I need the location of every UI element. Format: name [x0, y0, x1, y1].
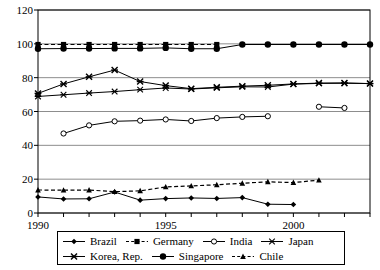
x-tick-label-2000: 2000	[282, 219, 305, 231]
legend-marker-x	[260, 236, 284, 247]
legend-symbol-marker	[71, 254, 78, 260]
data-point	[188, 86, 195, 92]
legend-row-2: Korea, Rep.SingaporeChile	[58, 249, 344, 264]
data-point	[239, 41, 245, 47]
data-point	[162, 45, 168, 51]
data-point	[86, 90, 92, 96]
data-point	[265, 201, 271, 207]
y-tick-label-20: 20	[22, 173, 34, 185]
data-point	[111, 67, 118, 73]
series-line	[38, 180, 319, 192]
y-tick-label-60: 60	[22, 106, 34, 118]
legend-marker-x-bold	[62, 251, 86, 262]
data-point	[214, 115, 219, 120]
legend-item-korea-rep[interactable]: Korea, Rep.	[62, 251, 143, 262]
data-point	[112, 119, 117, 124]
y-tick-label-80: 80	[22, 72, 34, 84]
data-point	[290, 41, 296, 47]
data-point	[137, 197, 143, 203]
data-point	[35, 194, 41, 200]
line-chart-plot: 020406080100120199019952000	[0, 0, 380, 270]
legend-marker-diamond-filled	[62, 236, 86, 247]
data-point	[137, 87, 143, 93]
x-tick-label-1995: 1995	[155, 219, 178, 231]
data-point	[240, 114, 245, 119]
data-point	[111, 45, 117, 51]
data-point	[214, 196, 220, 202]
data-point	[60, 81, 67, 87]
x-tick-label-1990: 1990	[27, 219, 50, 231]
data-point	[367, 41, 373, 47]
data-point	[239, 83, 246, 89]
legend-label: Korea, Rep.	[90, 251, 143, 262]
data-point	[86, 123, 91, 128]
legend-marker-circle-open	[202, 236, 226, 247]
data-point	[341, 80, 348, 86]
data-point	[265, 114, 270, 119]
legend-symbol-marker	[71, 239, 77, 245]
data-point	[214, 46, 220, 52]
series-line	[319, 107, 345, 108]
legend-item-chile[interactable]: Chile	[231, 251, 283, 262]
chart-legend: BrazilGermanyIndiaJapan Korea, Rep.Singa…	[57, 231, 345, 265]
data-point	[61, 131, 66, 136]
data-point	[213, 84, 220, 90]
y-tick-label-120: 120	[17, 4, 34, 16]
data-point	[86, 45, 92, 51]
data-point	[60, 45, 66, 51]
data-point	[265, 41, 271, 47]
legend-label: Singapore	[179, 251, 224, 262]
legend-label: Germany	[153, 236, 194, 247]
legend-label: Brazil	[90, 236, 117, 247]
data-point	[86, 74, 93, 80]
data-point	[189, 118, 194, 123]
legend-item-germany[interactable]: Germany	[125, 236, 194, 247]
legend-label: India	[230, 236, 253, 247]
data-point	[86, 196, 92, 202]
data-point	[316, 104, 321, 109]
series-chile	[35, 177, 322, 194]
legend-marker-circle-filled	[151, 251, 175, 262]
data-point	[291, 202, 297, 208]
series-india	[61, 104, 347, 136]
legend-item-brazil[interactable]: Brazil	[62, 236, 117, 247]
legend-label: Chile	[259, 251, 283, 262]
data-point	[137, 79, 144, 85]
data-point	[61, 196, 67, 202]
data-point	[138, 118, 143, 123]
chart-figure: 020406080100120199019952000 BrazilGerman…	[0, 0, 380, 270]
legend-marker-square-filled	[125, 236, 149, 247]
legend-symbol-marker	[160, 253, 166, 259]
data-point	[316, 80, 323, 86]
legend-label: Japan	[288, 236, 313, 247]
series-brazil	[35, 189, 296, 207]
legend-marker-triangle-filled	[231, 251, 255, 262]
legend-row-1: BrazilGermanyIndiaJapan	[58, 234, 344, 249]
data-point	[163, 117, 168, 122]
data-point	[342, 105, 347, 110]
data-point	[290, 81, 297, 87]
legend-symbol-marker	[269, 239, 275, 245]
data-point	[341, 41, 347, 47]
data-point	[111, 89, 117, 95]
data-point	[35, 46, 41, 52]
data-point	[137, 45, 143, 51]
data-point	[240, 195, 246, 201]
data-point	[188, 195, 194, 201]
data-point	[188, 46, 194, 52]
legend-item-japan[interactable]: Japan	[260, 236, 313, 247]
legend-symbol-marker	[134, 239, 139, 244]
legend-item-india[interactable]: India	[202, 236, 253, 247]
data-point	[316, 41, 322, 47]
data-point	[163, 196, 169, 202]
y-tick-label-100: 100	[17, 38, 34, 50]
legend-item-singapore[interactable]: Singapore	[151, 251, 224, 262]
y-tick-label-40: 40	[22, 139, 34, 151]
legend-symbol-marker	[211, 239, 216, 244]
y-tick-label-0: 0	[28, 207, 34, 219]
series-singapore	[35, 41, 373, 52]
data-point	[60, 92, 66, 98]
series-korea-rep	[35, 67, 374, 96]
